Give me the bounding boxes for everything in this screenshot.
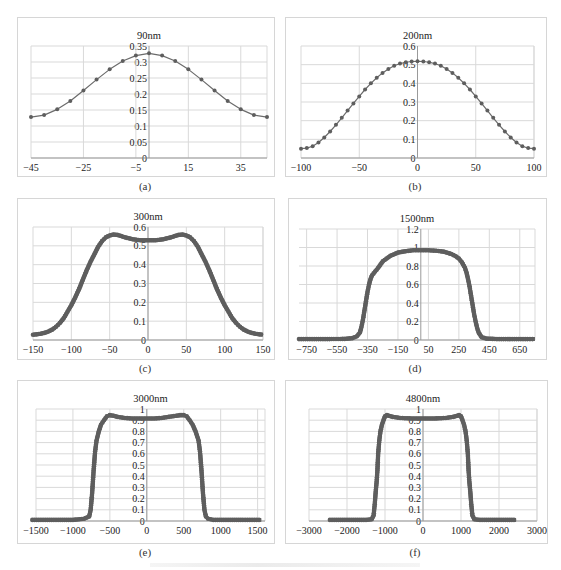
data-point xyxy=(456,76,460,80)
data-point xyxy=(213,88,217,92)
y-tick-label: 0.1 xyxy=(403,134,416,145)
data-point xyxy=(42,113,46,117)
caption-b: (b) xyxy=(395,180,435,192)
x-tick-label: 35 xyxy=(236,162,246,173)
data-point xyxy=(363,87,367,91)
y-tick-label: 0.6 xyxy=(409,448,422,459)
data-point xyxy=(259,332,264,337)
data-point xyxy=(381,71,385,75)
data-point xyxy=(55,107,59,111)
caption-a: (a) xyxy=(125,180,165,192)
x-tick-label: −150 xyxy=(23,344,44,355)
data-point xyxy=(468,87,472,91)
data-point xyxy=(375,76,379,80)
y-tick-label: 0.2 xyxy=(134,297,147,308)
y-tick-label: 0.6 xyxy=(134,222,147,233)
x-tick-label: 450 xyxy=(482,344,497,355)
data-point xyxy=(299,147,303,151)
data-point xyxy=(95,78,99,82)
x-tick-label: −100 xyxy=(61,344,82,355)
figure-caption-faint xyxy=(150,563,420,567)
x-tick-label: −5 xyxy=(131,162,142,173)
data-point xyxy=(512,518,517,523)
y-tick-label: 0.2 xyxy=(409,493,422,504)
x-tick-label: −1000 xyxy=(372,525,398,536)
data-point xyxy=(199,78,203,82)
y-tick-label: 0.7 xyxy=(409,437,422,448)
x-tick-label: −350 xyxy=(357,344,378,355)
data-point xyxy=(491,116,495,120)
x-tick-label: −50 xyxy=(351,162,367,173)
x-tick-label: −25 xyxy=(76,162,92,173)
x-tick-label: 500 xyxy=(176,525,191,536)
chart-title: 90nm xyxy=(137,30,161,41)
y-tick-label: 0.8 xyxy=(409,426,422,437)
data-point xyxy=(134,54,138,58)
x-tick-label: −100 xyxy=(291,162,312,173)
x-tick-label: 2000 xyxy=(489,525,509,536)
data-point xyxy=(462,81,466,85)
data-point xyxy=(474,94,478,98)
x-tick-label: 50 xyxy=(181,344,191,355)
chart-b: 200nm00.10.20.30.40.50.6−100−50050100 xyxy=(286,18,546,176)
data-point xyxy=(427,60,431,64)
chart-c: 300nm00.10.20.30.40.50.6−150−100−5005010… xyxy=(18,199,274,359)
x-tick-label: −2000 xyxy=(334,525,360,536)
y-tick-label: 0.3 xyxy=(409,482,422,493)
data-point xyxy=(121,59,125,63)
data-point xyxy=(398,62,402,66)
x-tick-label: −500 xyxy=(100,525,121,536)
data-point xyxy=(265,115,269,119)
data-point xyxy=(497,123,501,127)
chart-panel-f: 4800nm00.10.20.30.40.50.60.70.80.91−3000… xyxy=(285,380,548,544)
chart-d: 1500nm00.20.40.60.811.2−750−550−350−1505… xyxy=(289,199,546,359)
y-tick-label: 0.5 xyxy=(132,460,145,471)
x-tick-label: 50 xyxy=(423,344,433,355)
chart-title: 300nm xyxy=(133,211,162,222)
y-tick-label: 0.2 xyxy=(132,493,145,504)
data-point xyxy=(404,60,408,64)
y-tick-label: 1 xyxy=(140,404,145,415)
y-tick-label: 0.7 xyxy=(132,437,145,448)
x-tick-label: 0 xyxy=(415,162,420,173)
data-point xyxy=(386,67,390,71)
data-point xyxy=(485,109,489,113)
data-point xyxy=(322,135,326,139)
data-point xyxy=(503,129,507,133)
x-tick-label: 1000 xyxy=(451,525,471,536)
x-tick-label: 15 xyxy=(183,162,193,173)
data-point xyxy=(357,94,361,98)
x-tick-label: −50 xyxy=(102,344,118,355)
x-tick-label: 100 xyxy=(217,344,232,355)
y-tick-label: 0.8 xyxy=(406,261,419,272)
data-point xyxy=(532,147,536,151)
x-tick-label: 3000 xyxy=(527,525,547,536)
x-tick-label: −550 xyxy=(327,344,348,355)
chart-title: 3000nm xyxy=(133,393,167,404)
data-point xyxy=(530,337,535,342)
y-tick-label: 0.5 xyxy=(409,460,422,471)
data-point xyxy=(351,101,355,105)
data-point xyxy=(445,67,449,71)
data-point xyxy=(257,518,262,523)
data-point xyxy=(226,99,230,103)
data-point xyxy=(81,88,85,92)
data-point xyxy=(520,144,524,148)
chart-panel-c: 300nm00.10.20.30.40.50.6−150−100−5005010… xyxy=(17,198,275,360)
data-point xyxy=(439,64,443,68)
y-tick-label: 0.2 xyxy=(403,115,416,126)
chart-panel-e: 3000nm00.10.20.30.40.50.60.70.80.91−1500… xyxy=(17,380,275,544)
data-point xyxy=(526,146,530,150)
x-tick-label: 1500 xyxy=(248,525,268,536)
x-tick-label: 100 xyxy=(527,162,542,173)
chart-title: 200nm xyxy=(403,30,432,41)
data-point xyxy=(160,54,164,58)
y-tick-label: 0.3 xyxy=(403,97,416,108)
x-tick-label: 0 xyxy=(146,344,151,355)
data-point xyxy=(346,109,350,113)
x-tick-label: 650 xyxy=(512,344,527,355)
x-tick-label: 0 xyxy=(421,525,426,536)
x-tick-label: −45 xyxy=(23,162,39,173)
data-point xyxy=(68,99,72,103)
y-tick-label: 0.6 xyxy=(403,41,416,52)
